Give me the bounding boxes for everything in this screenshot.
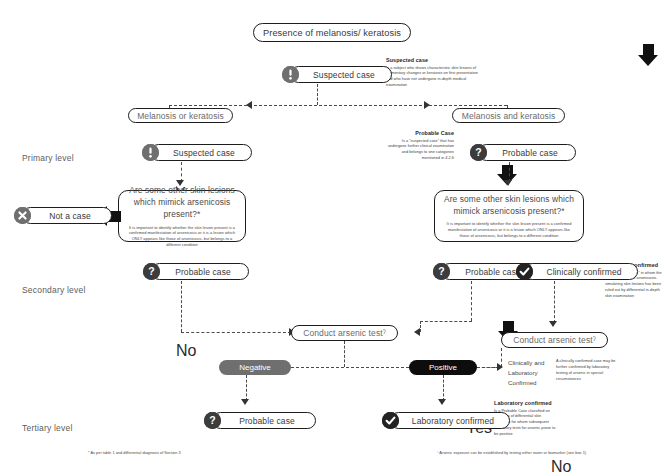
level-label-primary: Primary level — [22, 153, 74, 163]
edge-probable-right-to-test-left — [420, 321, 472, 322]
exclamation-icon — [142, 144, 159, 161]
arrowhead-laboratory-confirmed — [438, 399, 446, 405]
edge-positive-to-result — [477, 367, 499, 368]
question-icon: ? — [204, 412, 221, 429]
svg-text:?: ? — [148, 265, 154, 277]
annotation-suspected-case: Suspected case Is a subject who shows ch… — [386, 57, 481, 89]
node-not-a-case[interactable]: Not a case — [14, 207, 112, 224]
node-laboratory-confirmed-label: Laboratory confirmed — [390, 412, 510, 429]
edge-test-left-down — [344, 341, 345, 367]
node-probable-case-left[interactable]: ? Probable case — [143, 263, 249, 280]
node-suspected-case-left-label: Suspected case — [150, 144, 252, 161]
arrowhead-probable-bottom — [241, 399, 249, 405]
edge-left-suspected-to-decision — [181, 162, 182, 182]
node-clinically-confirmed[interactable]: Clinically confirmed — [516, 263, 638, 280]
edge-negative-positive-bar — [291, 367, 409, 368]
svg-text:?: ? — [438, 265, 444, 277]
node-probable-case-bottom[interactable]: ? Probable case — [204, 412, 316, 429]
node-not-a-case-label: Not a case — [22, 207, 112, 224]
label-clinically-laboratory-confirmed: Clinically and Laboratory Confirmed — [508, 358, 550, 389]
cross-icon — [14, 207, 31, 224]
node-laboratory-confirmed[interactable]: Laboratory confirmed — [382, 412, 510, 429]
arrowhead-right-branch — [424, 101, 430, 109]
level-label-secondary: Secondary level — [22, 285, 85, 295]
node-clinically-confirmed-label: Clinically confirmed — [524, 263, 638, 280]
edge-negative-down — [246, 375, 247, 401]
edge-right-probable-to-decision — [509, 162, 510, 182]
node-conduct-arsenic-test-right[interactable]: Conduct arsenic testˀ — [501, 332, 608, 348]
node-suspected-case-top-label: Suspected case — [290, 66, 392, 83]
edge-probable-left-to-test — [181, 332, 291, 333]
svg-text:?: ? — [209, 414, 215, 426]
edge-clinical-down — [554, 281, 555, 323]
arrowhead-right-decision — [504, 180, 512, 186]
node-probable-case-left-label: Probable case — [151, 263, 249, 280]
check-icon — [382, 412, 399, 429]
decision-left-mimick[interactable]: Are some other skin lesions which mimick… — [118, 190, 246, 242]
annotation-clin-lab-confirmed: A clinically confirmed case may be furth… — [556, 359, 620, 383]
arrowhead-clinical-to-test — [549, 321, 557, 327]
edge-probable-left-down — [181, 281, 182, 332]
decision-right-question: Are some other skin lesions which mimick… — [443, 193, 575, 217]
chip-positive[interactable]: Positive — [409, 360, 477, 375]
edge-suspected-to-split — [317, 84, 318, 105]
edge-right-no-clinical: No — [551, 437, 664, 476]
node-melanosis-or-keratosis[interactable]: Melanosis or keratosis — [128, 108, 233, 123]
question-icon: ? — [433, 263, 450, 280]
check-icon — [516, 263, 533, 280]
footnote-left: * As per table 1 and differential diagno… — [88, 451, 181, 455]
chip-negative[interactable]: Negative — [219, 360, 291, 375]
edge-probable-right-drop — [420, 321, 421, 332]
question-icon: ? — [143, 263, 160, 280]
edge-split-bar — [169, 105, 507, 106]
edge-label-no-right: No — [551, 458, 664, 476]
node-probable-case-bottom-label: Probable case — [212, 412, 316, 429]
edge-left-yes: Yes — [175, 165, 664, 203]
svg-text:?: ? — [475, 146, 481, 158]
decision-right-mimick[interactable]: Are some other skin lesions which mimick… — [434, 190, 584, 242]
edge-positive-down — [443, 375, 444, 401]
footnote-right: ˀ Arsenic exposure can be established by… — [437, 451, 586, 455]
node-melanosis-and-keratosis[interactable]: Melanosis and keratosis — [452, 108, 565, 123]
annotation-probable-case: Probable Case Is a “suspected case” that… — [386, 130, 454, 162]
arrowhead-left-branch — [246, 101, 252, 109]
decision-left-question: Are some other skin lesions which mimick… — [127, 184, 237, 221]
arrowhead-conduct-test-from-right — [414, 328, 420, 336]
edge-probable-right-down — [471, 281, 472, 321]
node-probable-case-right-top[interactable]: ? Probable case — [470, 144, 576, 161]
question-icon: ? — [470, 144, 487, 161]
edge-label-yes-left: Yes — [175, 185, 664, 203]
decision-right-note: It is important to identify whether the … — [443, 221, 575, 239]
node-suspected-case-left[interactable]: Suspected case — [142, 144, 252, 161]
level-label-tertiary: Tertiary level — [22, 423, 73, 433]
exclamation-icon — [282, 66, 299, 83]
node-start[interactable]: Presence of melanosis/ keratosis — [253, 23, 411, 42]
node-conduct-arsenic-test-left[interactable]: Conduct arsenic testˀ — [291, 325, 398, 341]
node-suspected-case-top[interactable]: Suspected case — [282, 66, 392, 83]
arrowhead-result — [497, 363, 503, 371]
decision-left-note: It is important to identify whether the … — [127, 225, 237, 248]
node-probable-case-right-top-label: Probable case — [478, 144, 576, 161]
flowchart-canvas: Primary level Secondary level Tertiary l… — [0, 0, 664, 476]
